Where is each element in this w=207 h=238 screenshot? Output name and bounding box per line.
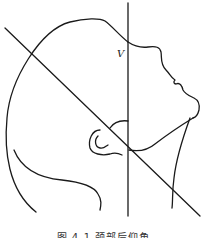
figure-caption: 图 4-1 颈部后仰角 bbox=[0, 229, 207, 238]
skull-outline bbox=[6, 19, 128, 212]
back-of-neck-curve bbox=[14, 150, 101, 210]
head-diagram bbox=[0, 0, 207, 238]
diagonal-reference-line bbox=[5, 28, 200, 216]
vertex-label: V bbox=[117, 48, 124, 59]
jaw-line bbox=[129, 118, 193, 151]
ear-inner bbox=[96, 136, 108, 148]
ear-top-curve bbox=[110, 121, 128, 128]
ear bbox=[89, 130, 122, 155]
face-profile bbox=[128, 42, 199, 118]
neck-front-line bbox=[172, 118, 190, 208]
